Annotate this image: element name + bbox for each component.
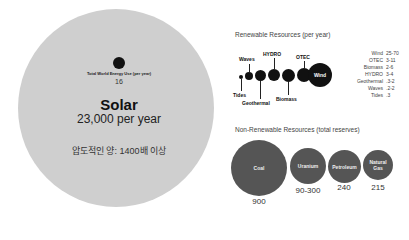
biomass-bubble [282,69,295,82]
otec-label: OTEC [296,54,310,60]
tides-label: Tides [233,92,246,98]
wind-label: Wind [314,72,326,78]
legend-row-wind: Wind25-70 [347,50,399,57]
solar-annotation: 압도적인 양: 1400배 이상 [40,144,198,157]
legend-row-hydro: HYDRO3-4 [347,71,399,78]
legend-row-waves: Waves.2-2 [347,85,399,92]
uranium-bubble: Uranium [290,148,326,184]
solar-value: 23,000 per year [40,112,198,126]
tides-leader-line [241,79,242,91]
coal-value: 900 [239,197,279,206]
petroleum-bubble: Petroleum [328,150,361,183]
coal-bubble: Coal [231,140,287,196]
biomass-label: Biomass [276,96,297,102]
legend-row-otec: OTEC3-11 [347,57,399,64]
uranium-value: 90-300 [288,186,328,195]
waves-bubble [245,72,253,80]
legend-row-biomass: Biomass2-6 [347,64,399,71]
waves-leader-line [249,64,250,72]
renewable-legend: Wind25-70 OTEC3-11 Biomass2-6 HYDRO3-4 G… [347,50,399,99]
hydro-bubble [268,69,280,81]
legend-row-geothermal: Geothermal.3-2 [347,78,399,85]
renewable-title: Renewable Resources (per year) [235,31,330,38]
natural-gas-value: 215 [358,183,398,192]
natural-gas-bubble: Natural Gas [363,150,393,180]
otec-leader-line [304,61,305,68]
geothermal-bubble [255,70,266,81]
hydro-label: HYDRO [263,51,281,57]
world-energy-label: Total World Energy Use (per year) [60,71,178,76]
geothermal-label: Geothermal [242,100,270,106]
legend-row-tides: Tides.3 [347,92,399,99]
world-energy-value: 16 [60,78,178,85]
solar-title: Solar [40,96,198,113]
nonrenewable-title: Non-Renewable Resources (total reserves) [235,126,360,133]
wind-bubble: Wind [308,63,332,87]
hydro-leader-line [274,58,275,69]
geothermal-leader-line [260,81,261,99]
biomass-leader-line [288,82,289,95]
world-energy-bubble [113,57,125,69]
waves-label: Waves [239,56,255,62]
